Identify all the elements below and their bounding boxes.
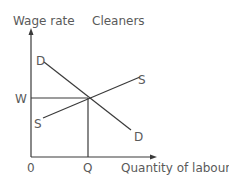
y-axis-label: Wage rate (13, 14, 75, 28)
chart-title: Cleaners (92, 14, 145, 28)
y-axis-arrow-icon (29, 28, 34, 35)
x-axis-arrow-icon (150, 155, 157, 160)
demand-start-label: D (36, 54, 45, 68)
quantity-label: Q (83, 161, 92, 175)
supply-end-label: S (138, 73, 146, 87)
demand-end-label: D (134, 130, 143, 144)
origin-label: 0 (27, 161, 35, 175)
supply-start-label: S (34, 117, 42, 131)
labour-market-diagram: Wage rate Cleaners D D S S W 0 Q Quantit… (0, 0, 229, 178)
x-axis-label: Quantity of labour (121, 161, 229, 175)
wage-label: W (15, 92, 27, 106)
